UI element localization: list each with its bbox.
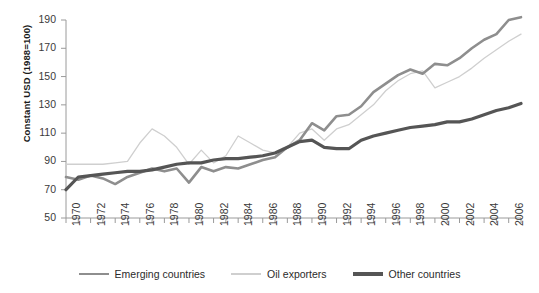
x-tick-1970: 1970 xyxy=(70,203,82,226)
x-tick-1974: 1974 xyxy=(119,203,131,226)
legend-line-swatch xyxy=(353,272,383,275)
x-tick-2006: 2006 xyxy=(513,203,525,226)
x-tick-2000: 2000 xyxy=(439,203,451,226)
legend-label: Other countries xyxy=(389,268,461,280)
legend-item-other-countries[interactable]: Other countries xyxy=(353,268,461,280)
x-tick-2002: 2002 xyxy=(464,203,476,226)
x-tick-1976: 1976 xyxy=(144,203,156,226)
x-tick-1998: 1998 xyxy=(414,203,426,226)
x-tick-1988: 1988 xyxy=(291,203,303,226)
x-tick-1984: 1984 xyxy=(242,203,254,226)
y-tick-190: 190 xyxy=(22,13,56,25)
y-tick-70: 70 xyxy=(22,183,56,195)
legend-item-emerging-countries[interactable]: Emerging countries xyxy=(79,268,205,280)
y-tick-130: 130 xyxy=(22,98,56,110)
x-tick-2004: 2004 xyxy=(488,203,500,226)
legend-item-oil-exporters[interactable]: Oil exporters xyxy=(231,268,327,280)
y-tick-170: 170 xyxy=(22,41,56,53)
x-tick-1986: 1986 xyxy=(267,203,279,226)
legend-label: Emerging countries xyxy=(115,268,205,280)
chart-legend: Emerging countriesOil exportersOther cou… xyxy=(0,264,539,284)
x-tick-1972: 1972 xyxy=(95,203,107,226)
x-tick-1994: 1994 xyxy=(365,203,377,226)
legend-line-swatch xyxy=(79,273,109,276)
y-tick-90: 90 xyxy=(22,154,56,166)
x-tick-1980: 1980 xyxy=(193,203,205,226)
legend-label: Oil exporters xyxy=(267,268,327,280)
x-tick-1992: 1992 xyxy=(341,203,353,226)
chart-plot-area xyxy=(0,0,539,293)
x-tick-1978: 1978 xyxy=(168,203,180,226)
x-tick-1982: 1982 xyxy=(218,203,230,226)
y-tick-110: 110 xyxy=(22,126,56,138)
y-tick-50: 50 xyxy=(22,211,56,223)
line-chart: Constant USD (1988=100) 5070901101301501… xyxy=(0,0,539,293)
x-tick-1996: 1996 xyxy=(390,203,402,226)
y-tick-150: 150 xyxy=(22,70,56,82)
legend-line-swatch xyxy=(231,273,261,274)
x-tick-1990: 1990 xyxy=(316,203,328,226)
